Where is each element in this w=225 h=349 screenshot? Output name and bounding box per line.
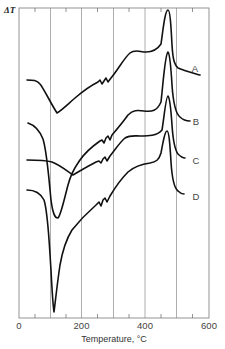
x-tick-600: 600 (201, 320, 217, 331)
dta-chart: ΔT 0 200 400 600 Temperature, °C A B C D (0, 0, 225, 349)
label-a: A (192, 63, 199, 74)
x-tick-200: 200 (74, 320, 90, 331)
x-tick-400: 400 (137, 320, 153, 331)
grid-lines (51, 8, 177, 318)
label-c: C (193, 155, 200, 166)
x-tick-0: 0 (16, 320, 21, 331)
label-b: B (193, 116, 199, 127)
x-axis-title: Temperature, °C (81, 334, 147, 344)
label-d: D (193, 191, 200, 202)
y-axis-label: ΔT (3, 5, 16, 15)
curve-b (28, 52, 190, 218)
